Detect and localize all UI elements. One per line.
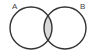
set-a-label: A <box>12 2 18 11</box>
set-b-label: B <box>80 2 85 11</box>
venn-diagram: A B <box>0 0 96 55</box>
